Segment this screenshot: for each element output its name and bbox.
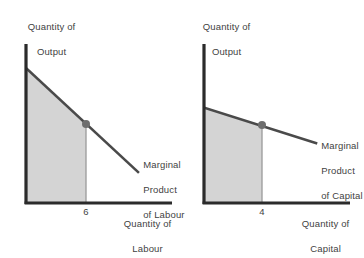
y-axis-title-line2: Output [37, 46, 66, 57]
y-axis-title-capital: Quantity of Output [182, 8, 260, 71]
marked-point-labour [82, 120, 90, 128]
chart-panel-marginal-product-of-labour: Quantity of Output 6 Quantity of Labour … [0, 0, 180, 244]
y-axis-title-line1: Quantity of [28, 21, 76, 32]
shaded-area-labour [27, 69, 86, 203]
curve-label-line3: of Labour [143, 209, 185, 220]
curve-label-line1: Marginal [143, 159, 181, 170]
y-axis-title-line1: Quantity of [203, 21, 251, 32]
curve-label-line2: Product [321, 165, 355, 176]
curve-label-marginal-product-of-capital: Marginal Product of Capital [310, 127, 364, 215]
curve-label-line3: of Capital [321, 190, 363, 201]
curve-label-line1: Marginal [321, 140, 359, 151]
x-axis-title-line2: Capital [310, 243, 341, 254]
x-tick-label-4: 4 [252, 206, 272, 219]
x-tick-label-6: 6 [76, 206, 96, 219]
marked-point-capital [258, 121, 266, 129]
y-axis-title-labour: Quantity of Output [8, 8, 84, 71]
x-axis-title-line2: Labour [132, 243, 162, 254]
x-axis-title-line1: Quantity of [302, 218, 350, 229]
chart-panel-marginal-product-of-capital: Quantity of Output 4 Quantity of Capital… [180, 0, 360, 244]
curve-label-marginal-product-of-labour: Marginal Product of Labour [132, 146, 186, 234]
y-axis-title-line2: Output [212, 46, 241, 57]
curve-label-line2: Product [143, 184, 177, 195]
